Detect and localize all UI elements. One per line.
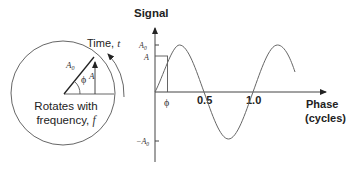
angle-label: ϕ — [81, 74, 86, 85]
x-tick-label-phi: ϕ — [164, 97, 169, 108]
y-tick-label-a: A — [143, 53, 149, 62]
rotation-direction-arrow-icon — [108, 54, 124, 97]
x-axis-label-line1: Phase — [306, 98, 338, 110]
projection-label: A — [88, 71, 95, 81]
phasor-group: Time, t A0 ϕ A Rotates with frequency, f — [11, 37, 124, 145]
x-tick-label-0-5: 0.5 — [197, 94, 212, 106]
y-tick-label-a0: A0 — [138, 41, 147, 51]
sine-plot: Signal Phase (cycles) A0 A −A0 ϕ 0.5 1.0 — [134, 7, 346, 162]
y-tick-label-neg-a0: −A0 — [136, 137, 149, 147]
caption-line2: frequency, f — [36, 114, 97, 127]
x-axis-label-line2: (cycles) — [305, 112, 346, 124]
time-label: Time, t — [87, 37, 121, 49]
caption-line1: Rotates with — [34, 100, 97, 112]
y-axis-label: Signal — [134, 7, 169, 19]
rotation-circle — [11, 41, 115, 145]
amplitude-label: A0 — [65, 60, 75, 71]
phasor-sine-diagram: Time, t A0 ϕ A Rotates with frequency, f… — [0, 0, 356, 169]
angle-arc — [75, 82, 81, 95]
